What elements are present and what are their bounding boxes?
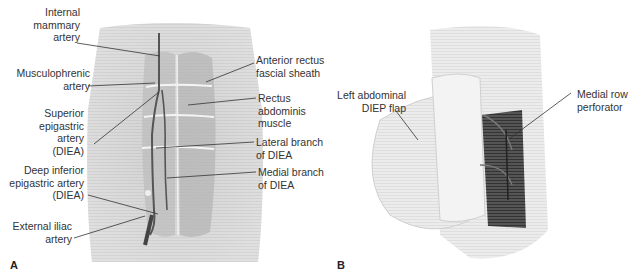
label-medial-row-perforator: Medial row perforator <box>577 88 628 113</box>
label-deep-inferior-epigastric-artery: Deep inferior epigastric artery (DIEA) <box>4 164 84 202</box>
label-lateral-branch-of-diea: Lateral branch of DIEA <box>256 136 323 161</box>
label-left-abdominal-diep-flap: Left abdominal DIEP flap <box>328 89 406 114</box>
label-external-iliac-artery: External iliac artery <box>4 220 72 245</box>
flap-illustration <box>372 26 548 258</box>
panel-letter-a: A <box>10 259 18 271</box>
label-internal-mammary-artery: Internal mammary artery <box>20 6 80 44</box>
label-rectus-abdominis-muscle: Rectus abdominis muscle <box>258 92 306 130</box>
label-anterior-rectus-fascial-sheath: Anterior rectus fascial sheath <box>256 54 324 79</box>
panel-letter-b: B <box>337 259 345 271</box>
label-musculophrenic-artery: Musculophrenic artery <box>4 67 90 92</box>
label-superior-epigastric-artery: Superior epigastric artery (DIEA) <box>20 107 84 157</box>
label-medial-branch-of-diea: Medial branch of DIEA <box>258 166 324 191</box>
